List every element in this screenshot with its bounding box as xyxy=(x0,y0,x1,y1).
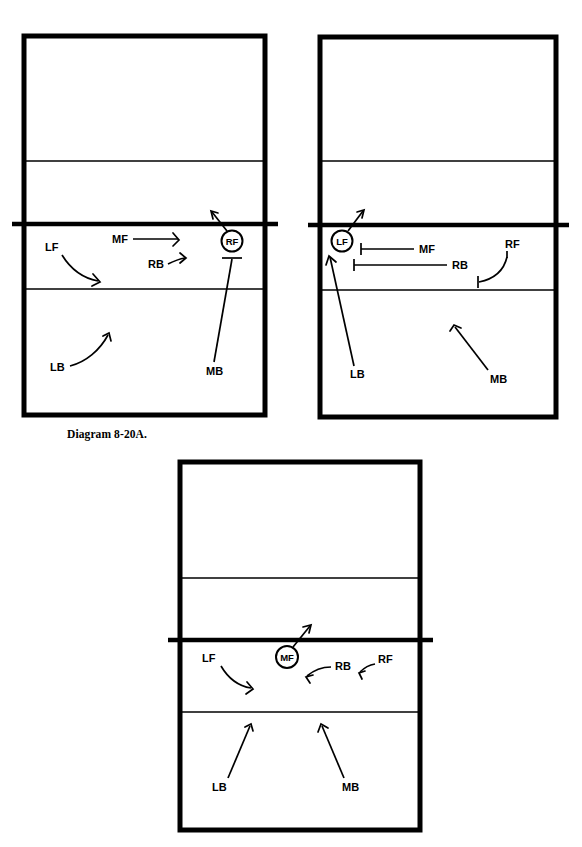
player-label-mf: MF xyxy=(112,233,128,245)
court-boundary xyxy=(180,462,420,830)
rf-movement-path xyxy=(212,212,227,231)
player-label-mf: MF xyxy=(419,243,435,255)
court-diagram-a: LF MF RB RF LB MB xyxy=(0,0,292,424)
player-label-mb: MB xyxy=(342,781,359,793)
page-canvas: LF MF RB RF LB MB Diagram 8-20 xyxy=(0,0,582,847)
rf-movement-path xyxy=(360,664,375,672)
diagram-8-20c: LF MF RB RF LB MB Diagram 8-20 xyxy=(150,450,440,847)
diagram-8-20b: LF MF RB RF LB MB Diagram 8-20 xyxy=(292,0,582,424)
player-label-lb: LB xyxy=(212,781,227,793)
lf-movement-path xyxy=(348,211,363,231)
rb-movement-path xyxy=(307,667,331,676)
player-label-lf: LF xyxy=(336,236,348,247)
player-label-lf: LF xyxy=(202,652,216,664)
lf-movement-path xyxy=(62,255,98,281)
court-diagram-b: LF MF RB RF LB MB xyxy=(292,0,582,424)
rf-arrowhead xyxy=(359,671,365,679)
player-label-rb: RB xyxy=(452,259,468,271)
player-label-mb: MB xyxy=(206,365,223,377)
rb-arrowhead xyxy=(306,675,313,683)
lf-movement-path xyxy=(221,666,251,688)
diagram-8-20a: LF MF RB RF LB MB Diagram 8-20 xyxy=(0,0,292,424)
rf-movement-path xyxy=(479,257,507,282)
mb-movement-path xyxy=(214,259,232,362)
mb-movement-path xyxy=(322,726,344,778)
lb-movement-path xyxy=(70,335,108,366)
player-label-lb: LB xyxy=(50,361,65,373)
mf-movement-path xyxy=(293,626,310,647)
player-label-rf: RF xyxy=(226,236,239,247)
player-label-rb: RB xyxy=(148,258,164,270)
player-label-mb: MB xyxy=(490,373,507,385)
lb-movement-path xyxy=(330,257,354,366)
player-label-mf: MF xyxy=(280,652,294,663)
player-label-lb: LB xyxy=(350,368,365,380)
mb-movement-path xyxy=(455,327,488,370)
player-label-rb: RB xyxy=(335,660,351,672)
player-label-rf: RF xyxy=(505,238,520,250)
player-label-lf: LF xyxy=(45,241,59,253)
court-diagram-c: LF MF RB RF LB MB xyxy=(150,450,440,847)
lb-movement-path xyxy=(228,726,250,778)
player-label-rf: RF xyxy=(378,653,393,665)
caption-diagram-a: Diagram 8-20A. xyxy=(67,428,147,440)
